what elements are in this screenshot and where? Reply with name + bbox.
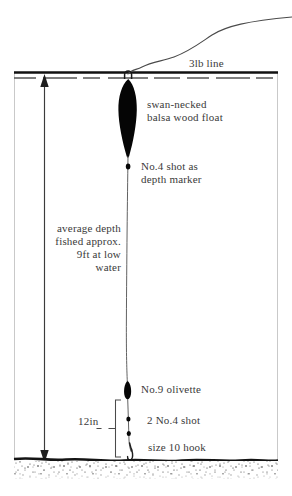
label-average-depth-line2: fished approx. [55, 235, 121, 247]
label-average-depth: average depthfished approx.9ft at lowwat… [37, 222, 121, 274]
label-balsa-float-line1: swan-necked [147, 98, 207, 110]
label-olivette: No.9 olivette [141, 383, 201, 396]
label-balsa-float: swan-neckedbalsa wood float [147, 98, 223, 124]
riverbed [14, 458, 278, 479]
label-depth-marker: No.4 shot asdepth marker [141, 160, 202, 186]
depth-marker-shot [126, 164, 131, 170]
olivette-weight [124, 381, 131, 399]
water-surface [14, 73, 278, 79]
label-3lb-line: 3lb line [189, 57, 224, 70]
fishing-rig-diagram: 3lb line swan-neckedbalsa wood float No.… [0, 0, 292, 496]
label-hook: size 10 hook [148, 441, 206, 454]
label-average-depth-line1: average depth [57, 222, 121, 234]
balsa-float-body [118, 79, 136, 158]
fishing-line-below-float [126, 156, 128, 384]
label-no4-shot: 2 No.4 shot [147, 414, 200, 427]
label-depth-marker-line2: depth marker [141, 173, 202, 185]
hooklength-shot-upper [126, 416, 130, 421]
hooklength-shot-lower [127, 431, 131, 436]
label-depth-marker-line1: No.4 shot as [141, 160, 198, 172]
diagram-frame [14, 72, 278, 479]
label-balsa-float-line2: balsa wood float [147, 111, 223, 123]
label-average-depth-line4: water [96, 261, 121, 273]
label-tail-length: 12in [78, 415, 98, 428]
hook-shank [130, 443, 132, 451]
tail-length-bracket [97, 400, 121, 457]
label-average-depth-line3: 9ft at low [77, 248, 121, 260]
